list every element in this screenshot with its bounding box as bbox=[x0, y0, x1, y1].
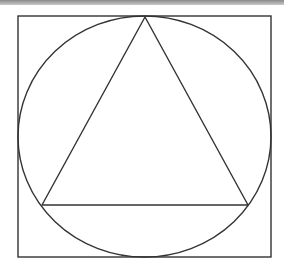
geometry-diagram bbox=[0, 0, 284, 274]
inscribed-triangle bbox=[42, 17, 248, 205]
inscribed-circle bbox=[18, 16, 271, 257]
outer-square bbox=[18, 16, 271, 257]
